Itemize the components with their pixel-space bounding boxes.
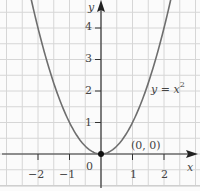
x-tick-m2: −2	[28, 168, 44, 181]
y-tick-2: 2	[85, 84, 92, 97]
y-tick-3: 3	[85, 52, 92, 65]
curve-label-base: y = x	[150, 83, 180, 96]
origin-label: 0	[86, 160, 93, 173]
curve-label-exp: 2	[180, 80, 185, 89]
x-tick-m1: −1	[59, 168, 75, 181]
y-axis-label: y	[87, 1, 95, 14]
y-tick-1: 1	[85, 116, 92, 129]
x-tick-1: 1	[130, 168, 137, 181]
chart: y x 4 3 2 1 0 −2 −1 1 2 (0, 0) y = x2	[0, 0, 200, 191]
curve-label: y = x2	[150, 80, 185, 96]
point-label: (0, 0)	[131, 139, 161, 152]
origin-point	[98, 151, 104, 157]
x-tick-2: 2	[161, 168, 168, 181]
plot-area: y x 4 3 2 1 0 −2 −1 1 2 (0, 0) y = x2	[0, 0, 200, 191]
y-tick-4: 4	[85, 20, 92, 33]
x-axis-label: x	[187, 161, 194, 174]
